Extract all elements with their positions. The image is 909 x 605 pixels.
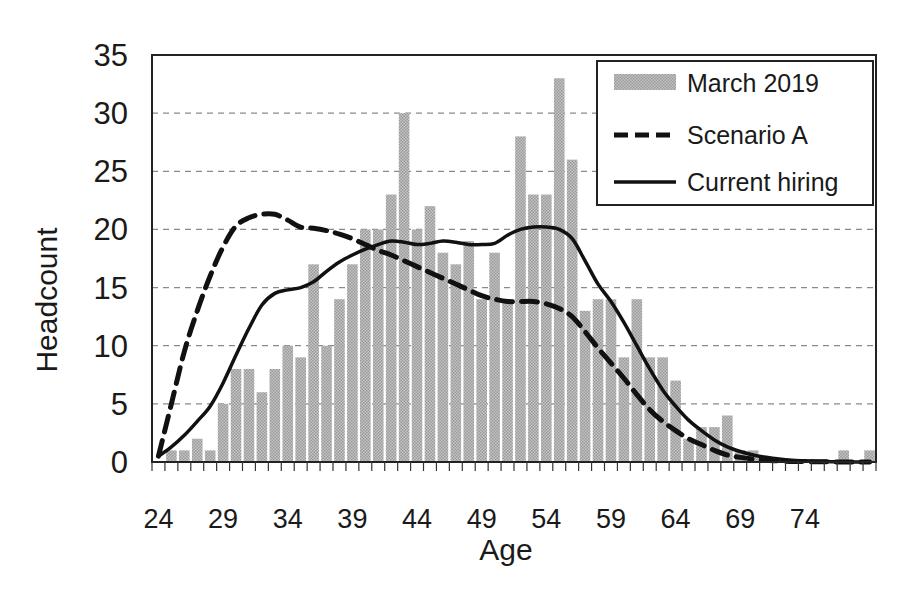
x-tick-label: 59 [596,504,626,534]
bar [205,450,216,462]
bar [463,241,474,462]
bar [373,229,384,462]
bar [502,299,513,462]
bar [321,346,332,462]
bar [451,264,462,462]
bar [670,381,681,462]
bar [179,450,190,462]
x-axis-ticks: 2429343944495459646974 [143,462,876,534]
x-tick-label: 69 [725,504,755,534]
x-tick-label: 24 [143,504,173,534]
y-axis-title: Headcount [30,227,63,373]
bar [606,299,617,462]
y-tick-label: 25 [94,154,128,189]
bar [489,253,500,462]
x-tick-label: 64 [661,504,691,534]
y-tick-label: 35 [94,38,128,73]
bar [709,427,720,462]
x-tick-label: 39 [337,504,367,534]
bar [334,299,345,462]
bar [257,392,268,462]
bar [438,253,449,462]
y-tick-label: 30 [94,96,128,131]
bar [476,299,487,462]
y-tick-label: 15 [94,271,128,306]
x-tick-label: 34 [273,504,303,534]
x-tick-label: 54 [531,504,561,534]
bar [528,195,539,462]
bar [347,264,358,462]
legend-label-current-hiring: Current hiring [687,168,838,196]
x-tick-label: 44 [402,504,432,534]
x-tick-label: 74 [790,504,820,534]
bar [308,264,319,462]
y-axis-ticks: 05101520253035 [94,38,128,480]
bar [295,357,306,462]
figure-caption-faint [30,584,890,598]
headcount-age-chart: 05101520253035 2429343944495459646974 He… [0,0,909,605]
bar [192,439,203,462]
bar [218,404,229,462]
bar [554,78,565,462]
bar [593,299,604,462]
bar [632,299,643,462]
bar [567,160,578,462]
bar [541,195,552,462]
bar [657,357,668,462]
bar [282,346,293,462]
x-tick-label: 49 [467,504,497,534]
bar [386,195,397,462]
x-axis-title: Age [479,533,532,566]
bar [360,229,371,462]
bar [399,113,410,462]
bar [244,369,255,462]
legend-swatch-bar [614,74,676,90]
y-tick-label: 5 [111,387,128,422]
bar [270,369,281,462]
legend: March 2019 Scenario A Current hiring [597,61,873,205]
x-tick-label: 29 [208,504,238,534]
y-tick-label: 20 [94,212,128,247]
legend-label-march-2019: March 2019 [687,69,819,97]
y-tick-label: 0 [111,445,128,480]
legend-label-scenario-a: Scenario A [687,121,808,149]
y-tick-label: 10 [94,329,128,364]
bar [231,369,242,462]
bar [166,450,177,462]
